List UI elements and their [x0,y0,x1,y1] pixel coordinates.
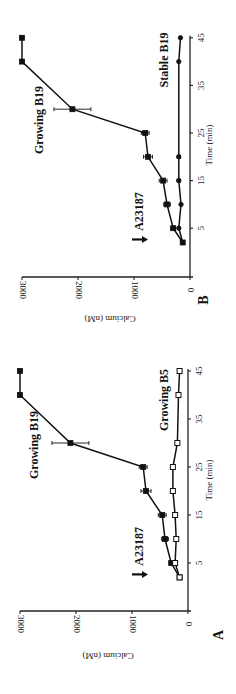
annotation-a23187: A23187 [132,192,146,231]
series-label: Growing B5 [157,369,171,431]
data-point-marker [173,513,178,518]
data-point-marker [177,178,181,182]
calcium-tick-label: 3000 [16,615,26,634]
time-tick-label: 45 [196,33,206,43]
calcium-tick-label: 2000 [72,615,82,634]
series-line-growing-b5 [173,371,180,577]
calcium-axis-label: Calcium (nM) [84,314,135,324]
data-point-marker [18,393,23,398]
data-point-marker [144,489,149,494]
data-point-marker [175,441,180,446]
data-point-marker [68,441,73,446]
panel-letter: B [196,295,211,304]
arrow-head-icon [142,571,148,578]
data-point-marker [181,240,185,244]
time-tick-label: 35 [196,80,206,90]
data-point-marker [161,178,166,183]
data-point-marker [165,202,170,207]
time-tick-label: 5 [196,225,206,230]
calcium-tick-label: 1000 [128,615,138,634]
data-point-marker [20,59,25,64]
data-point-marker [177,155,181,159]
series-line-stable-b19 [179,38,183,243]
time-tick-label: 15 [196,176,206,186]
data-point-marker [177,575,182,580]
calcium-tick-label: 2000 [74,281,84,300]
time-tick-label: 35 [194,414,204,424]
time-tick-label: 45 [194,366,204,376]
time-axis-label: Time (min) [204,460,214,501]
data-point-marker [179,202,183,206]
data-point-marker [178,36,182,40]
figure-canvas: 0100020003000515253545Calcium (nM)Time (… [0,0,236,694]
data-point-marker [170,465,175,470]
time-axis-label: Time (min) [204,125,214,166]
data-point-marker [174,537,179,542]
data-point-marker [177,226,181,230]
data-point-marker [160,513,165,518]
data-point-marker [173,561,178,566]
series-label: Stable B19 [157,32,171,87]
data-point-marker [176,393,181,398]
calcium-tick-label: 0 [184,622,194,627]
panel-b-chart: 0100020003000515253545Calcium (nM)Time (… [18,32,214,323]
calcium-tick-label: 1000 [130,281,140,300]
arrow-head-icon [142,236,148,243]
annotation-a23187: A23187 [132,527,146,566]
data-point-marker [18,369,23,374]
panel-letter: A [211,629,226,640]
calcium-tick-label: 0 [186,288,196,293]
time-tick-label: 15 [194,510,204,520]
time-tick-label: 5 [194,560,204,565]
data-point-marker [141,465,146,470]
data-point-marker [163,537,168,542]
time-tick-label: 25 [194,462,204,472]
data-point-marker [170,489,175,494]
data-point-marker [143,131,148,136]
data-point-marker [177,59,181,63]
data-point-marker [177,369,182,374]
data-point-marker [171,226,176,231]
panel-a-chart: 0100020003000515253545Calcium (nM)Time (… [16,366,226,661]
data-point-marker [146,154,151,159]
calcium-tick-label: 3000 [18,281,28,300]
series-label: Growing B19 [32,86,46,154]
series-label: Growing B19 [27,411,41,479]
calcium-axis-label: Calcium (nM) [82,651,133,661]
data-point-marker [20,35,25,40]
series-line-growing-b19 [20,371,180,577]
data-point-marker [70,107,75,112]
